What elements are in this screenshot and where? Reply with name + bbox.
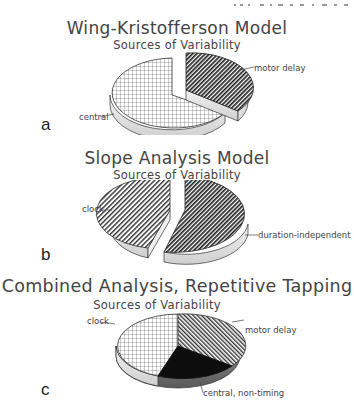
label-central-non-timing-c: central, non-timing <box>203 388 284 398</box>
chart-c-title: Combined Analysis, Repetitive Tapping <box>0 276 354 296</box>
slice-duration-independent <box>164 180 245 252</box>
label-duration-independent-b: duration-independent <box>258 230 351 240</box>
panel-letter-c: c <box>41 380 50 400</box>
label-central-a: central <box>79 112 109 122</box>
panel-letter-b: b <box>41 245 50 265</box>
chart-b-pie <box>0 180 354 265</box>
chart-b-title: Slope Analysis Model <box>0 148 354 168</box>
label-clock-b: clock <box>82 204 104 214</box>
chart-a-title: Wing-Kristofferson Model <box>0 18 354 38</box>
label-motor-delay-c: motor delay <box>245 325 296 335</box>
chart-c-pie <box>0 310 354 407</box>
header-fragment <box>230 2 354 8</box>
label-motor-delay-a: motor delay <box>254 63 305 73</box>
panel-letter-a: a <box>41 115 50 135</box>
label-clock-c: clock <box>87 316 109 326</box>
